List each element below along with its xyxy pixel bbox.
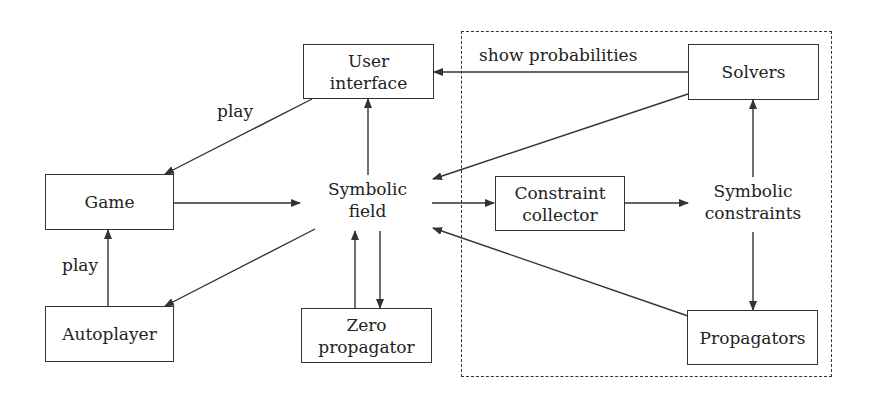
- node-label: field: [305, 200, 430, 222]
- node-label: User: [348, 50, 389, 72]
- node-user-interface[interactable]: User interface: [303, 44, 434, 99]
- edge-label-autoplayer-to-game: play: [62, 255, 98, 275]
- node-label: Game: [85, 191, 135, 213]
- node-symbolic-constraints[interactable]: Symbolic constraints: [690, 180, 816, 224]
- node-label: interface: [330, 72, 407, 94]
- node-label: propagator: [318, 336, 414, 358]
- node-label: Autoplayer: [62, 323, 157, 345]
- node-label: Solvers: [722, 61, 786, 83]
- node-label: Constraint: [514, 182, 605, 204]
- node-autoplayer[interactable]: Autoplayer: [45, 306, 174, 362]
- node-label: collector: [522, 204, 597, 226]
- node-propagators[interactable]: Propagators: [687, 310, 818, 365]
- edge-field-to-autoplayer: [165, 229, 315, 306]
- edge-label-solvers-to-ui: show probabilities: [479, 45, 637, 65]
- node-label: Symbolic: [690, 180, 816, 202]
- node-label: Zero: [346, 314, 386, 336]
- node-solvers[interactable]: Solvers: [688, 44, 819, 100]
- node-label: constraints: [690, 202, 816, 224]
- node-label: Propagators: [700, 327, 806, 349]
- node-symbolic-field[interactable]: Symbolic field: [305, 178, 430, 222]
- node-label: Symbolic: [305, 178, 430, 200]
- node-game[interactable]: Game: [45, 174, 174, 230]
- node-zero-propagator[interactable]: Zero propagator: [301, 308, 432, 363]
- node-constraint-collector[interactable]: Constraint collector: [495, 176, 625, 231]
- edge-label-ui-to-game: play: [217, 101, 253, 121]
